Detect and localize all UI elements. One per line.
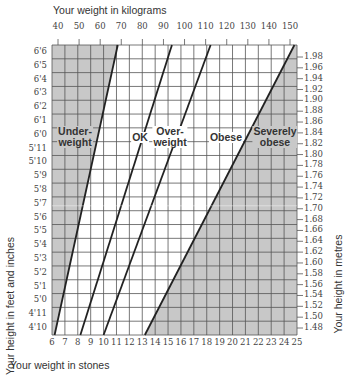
zone-label-obese: Obese [209,132,243,143]
height-ftin-tick-label: 5'10 [28,156,47,166]
stone-tick-label: 6 [49,337,54,347]
height-metre-tick-label: 1.62 [304,246,323,256]
stone-tick-label: 23 [266,337,277,347]
kg-tick-label: 50 [74,21,85,31]
height-ftin-tick-label: 6'6 [34,46,47,56]
kg-tick-label: 120 [219,21,235,31]
kg-tick-label: 40 [53,21,64,31]
kg-tick-label: 110 [198,21,214,31]
stone-tick-label: 15 [163,337,174,347]
height-metre-tick-label: 1.92 [304,84,323,94]
height-ftin-tick-label: 5'11 [28,143,47,153]
height-metre-tick-label: 1.52 [304,300,323,310]
stone-tick-label: 19 [214,337,225,347]
height-ftin-tick-label: 6'2 [34,101,47,111]
height-metre-tick-label: 1.84 [304,127,323,137]
height-metre-tick-label: 1.76 [304,170,323,180]
kg-tick-label: 150 [282,21,298,31]
stone-tick-label: 7 [62,337,67,347]
height-metre-tick-label: 1.58 [304,268,323,278]
stone-tick-label: 16 [176,337,187,347]
height-metre-tick-label: 1.68 [304,214,323,224]
height-metre-tick-label: 1.98 [304,51,323,61]
top-axis-title: Your weight in kilograms [53,4,166,16]
stone-tick-label: 25 [292,337,303,347]
height-ftin-tick-label: 6'3 [34,87,47,97]
stone-tick-label: 14 [150,337,161,347]
stone-tick-label: 21 [240,337,251,347]
height-ftin-tick-label: 5'2 [34,267,47,277]
stone-tick-label: 22 [253,337,264,347]
kg-tick-label: 80 [137,21,148,31]
height-ftin-tick-label: 5'5 [34,225,47,235]
height-metre-tick-label: 1.60 [304,257,323,267]
height-metre-tick-label: 1.64 [304,235,323,245]
height-metre-tick-label: 1.56 [304,279,323,289]
kg-tick-label: 140 [261,21,277,31]
stone-tick-label: 20 [227,337,238,347]
height-metre-tick-label: 1.88 [304,105,323,115]
height-metre-tick-label: 1.70 [304,203,323,213]
height-metre-tick-label: 1.96 [304,62,323,72]
height-ftin-tick-label: 6'1 [34,115,47,125]
height-metre-tick-label: 1.66 [304,224,323,234]
height-ftin-tick-label: 5'8 [34,184,47,194]
zone-label-severely-obese: Severelyobese [252,126,297,148]
bmi-chart [0,0,356,376]
height-ftin-tick-label: 5'3 [34,253,47,263]
stone-tick-label: 9 [88,337,93,347]
height-ftin-tick-label: 5'7 [34,198,47,208]
stone-tick-label: 17 [188,337,199,347]
kg-tick-label: 70 [116,21,127,31]
stone-tick-label: 8 [75,337,80,347]
height-metre-tick-label: 1.74 [304,181,323,191]
height-ftin-tick-label: 4'11 [28,308,47,318]
height-ftin-tick-label: 5'6 [34,212,47,222]
kg-tick-label: 60 [95,21,106,31]
height-ftin-tick-label: 5'1 [34,281,47,291]
kg-tick-label: 90 [158,21,169,31]
height-ftin-tick-label: 6'0 [34,129,47,139]
zone-label-overweight: Over-weight [152,126,187,148]
right-axis-title: Your height in metres [332,214,344,354]
height-ftin-tick-label: 6'5 [34,60,47,70]
left-axis-title: Your height in feet and inches [4,226,16,376]
height-metre-tick-label: 1.90 [304,94,323,104]
stone-tick-label: 10 [98,337,109,347]
kg-tick-label: 100 [176,21,192,31]
bottom-axis-title: Your weight in stones [10,359,109,371]
kg-tick-label: 130 [240,21,256,31]
stone-tick-label: 12 [124,337,135,347]
height-metre-tick-label: 1.94 [304,73,323,83]
height-metre-tick-label: 1.54 [304,289,323,299]
height-ftin-tick-label: 4'10 [28,322,47,332]
stone-tick-label: 24 [279,337,290,347]
height-ftin-tick-label: 5'9 [34,170,47,180]
stone-tick-label: 13 [137,337,148,347]
height-metre-tick-label: 1.86 [304,116,323,126]
stone-tick-label: 11 [111,337,122,347]
height-metre-tick-label: 1.48 [304,322,323,332]
height-metre-tick-label: 1.50 [304,311,323,321]
zone-label-ok: OK [131,132,149,143]
height-ftin-tick-label: 5'4 [34,239,47,249]
stone-tick-label: 18 [201,337,212,347]
height-metre-tick-label: 1.78 [304,159,323,169]
height-ftin-tick-label: 6'4 [34,74,47,84]
height-metre-tick-label: 1.72 [304,192,323,202]
height-metre-tick-label: 1.80 [304,149,323,159]
zone-label-underweight: Under-weight [57,126,93,148]
height-metre-tick-label: 1.82 [304,138,323,148]
height-ftin-tick-label: 5'0 [34,294,47,304]
